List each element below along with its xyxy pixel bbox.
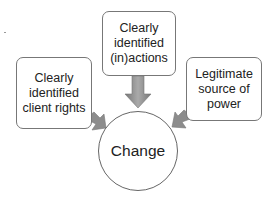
arrow-top-to-center (125, 76, 151, 108)
node-change: Change (98, 111, 178, 191)
node-client-rights-label: Clearly identified client rights (22, 71, 85, 116)
node-inactions-label: Clearly identified (in)actions (110, 21, 168, 66)
node-legitimate-power: Legitimate source of power (186, 57, 262, 121)
stray-mark (4, 32, 6, 33)
node-client-rights: Clearly identified client rights (16, 57, 92, 129)
node-inactions: Clearly identified (in)actions (102, 11, 176, 76)
node-change-label: Change (111, 142, 165, 160)
node-legitimate-power-label: Legitimate source of power (195, 67, 253, 112)
